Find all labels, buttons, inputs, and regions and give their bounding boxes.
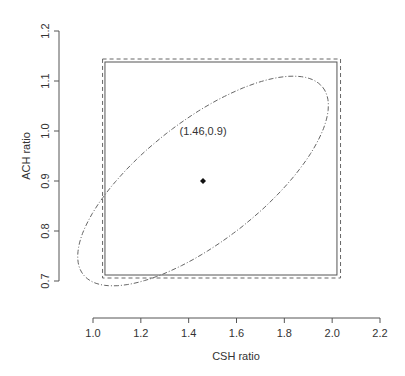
x-tick-label: 1.6 xyxy=(229,327,244,339)
point-annotation: (1.46,0.9) xyxy=(179,125,226,137)
x-tick-label: 2.0 xyxy=(325,327,340,339)
y-tick-label: 1.0 xyxy=(39,123,51,138)
y-tick-label: 0.7 xyxy=(39,273,51,288)
y-tick-label: 0.8 xyxy=(39,223,51,238)
y-tick-label: 0.9 xyxy=(39,173,51,188)
x-tick-label: 1.0 xyxy=(85,327,100,339)
y-tick-label: 1.2 xyxy=(39,23,51,38)
inner-solid-rectangle xyxy=(105,62,337,275)
x-axis-title: CSH ratio xyxy=(212,350,260,362)
plot-area: (1.46,0.9) xyxy=(78,59,341,286)
x-axis: 1.01.21.41.61.82.02.2 xyxy=(85,318,387,339)
outer-dashed-rectangle xyxy=(103,59,341,278)
x-tick-label: 1.8 xyxy=(277,327,292,339)
y-tick-label: 1.1 xyxy=(39,73,51,88)
x-tick-label: 1.2 xyxy=(133,327,148,339)
x-tick-label: 2.2 xyxy=(372,327,387,339)
x-tick-label: 1.4 xyxy=(181,327,196,339)
data-point xyxy=(200,178,206,184)
y-axis: 0.70.80.91.01.11.2 xyxy=(39,23,59,288)
ellipse-confidence-chart: 0.70.80.91.01.11.2 1.01.21.41.61.82.02.2… xyxy=(0,0,405,376)
y-axis-title: ACH ratio xyxy=(20,132,32,180)
